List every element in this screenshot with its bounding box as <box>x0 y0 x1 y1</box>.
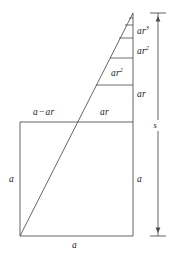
label-step-ar2-upper-base: ar <box>137 46 146 56</box>
label-step-ar3-base: ar <box>137 26 146 36</box>
geometric-series-figure: a−ar ar a a a ar ar2 ar2 ar3 s <box>0 0 173 259</box>
label-step-ar2-upper-exp: 2 <box>146 44 149 51</box>
label-total-height-s: s <box>152 120 159 131</box>
figure-drawing <box>0 0 173 259</box>
label-right-side: a <box>137 175 142 185</box>
arrowhead-up <box>156 16 161 22</box>
label-left-side: a <box>9 175 14 185</box>
label-step-ar2-lower-base: ar <box>111 68 120 78</box>
label-minus-operator: − <box>38 107 46 117</box>
label-bottom-side: a <box>72 241 77 251</box>
arrowhead-down <box>156 228 161 234</box>
label-top-left-segment: a−ar <box>33 108 54 118</box>
label-step-ar2-upper: ar2 <box>137 47 149 57</box>
label-step-ar-base: ar <box>137 89 146 99</box>
diagonal-line <box>20 13 133 236</box>
label-step-ar: ar <box>137 90 146 100</box>
label-step-ar3-exp: 3 <box>146 24 149 31</box>
label-step-ar3: ar3 <box>137 27 149 37</box>
label-top-right-segment: ar <box>100 108 109 118</box>
label-ar-term: ar <box>46 107 55 117</box>
square-outline <box>20 122 133 236</box>
label-step-ar2-lower-exp: 2 <box>120 66 123 73</box>
label-step-ar2-lower: ar2 <box>111 69 123 79</box>
